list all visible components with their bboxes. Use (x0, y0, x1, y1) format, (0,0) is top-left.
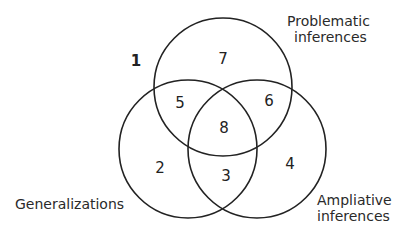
region-5-label: 5 (175, 94, 185, 112)
region-3-label: 3 (221, 167, 231, 185)
region-1-label: 1 (131, 52, 141, 70)
venn-diagram: 1 7 5 6 8 2 3 4 Problematic inferences G… (0, 0, 406, 240)
set-label-ampliative-line2: inferences (317, 208, 390, 224)
region-4-label: 4 (285, 155, 295, 173)
set-label-problematic-line1: Problematic (287, 13, 370, 29)
region-7-label: 7 (218, 50, 228, 68)
set-label-problematic-line2: inferences (294, 29, 367, 45)
region-2-label: 2 (155, 159, 165, 177)
set-label-ampliative-line1: Ampliative (317, 192, 392, 208)
region-8-label: 8 (219, 119, 229, 137)
set-label-generalizations: Generalizations (15, 196, 124, 212)
region-6-label: 6 (264, 92, 274, 110)
